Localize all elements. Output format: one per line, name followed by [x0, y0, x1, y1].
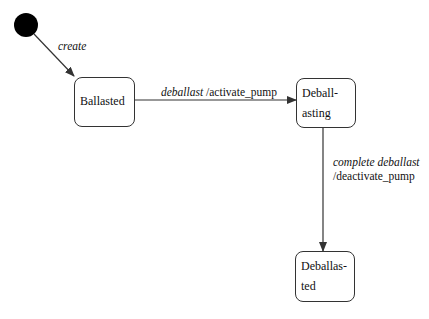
transition-deballast-label: deballast /activate_pump: [161, 85, 277, 99]
initial-state-dot: [14, 13, 38, 37]
state-deballasted-line1: Deballas-: [301, 256, 354, 276]
transition-deballast-event: deballast: [161, 86, 203, 98]
state-deballasting-line2: asting: [302, 103, 355, 123]
transition-complete-event: complete deballast: [333, 155, 420, 169]
state-deballasted[interactable]: Deballas- ted: [295, 251, 355, 302]
state-deballasting[interactable]: Deball- asting: [296, 78, 356, 128]
state-deballasting-line1: Deball-: [302, 83, 355, 103]
state-ballasted[interactable]: Ballasted: [74, 77, 135, 127]
state-deballasted-line2: ted: [301, 276, 354, 296]
transition-complete-action: /deactivate_pump: [333, 169, 420, 183]
state-ballasted-label: Ballasted: [80, 91, 134, 111]
transition-deballast-action: /activate_pump: [206, 86, 277, 98]
transition-create-label: create: [58, 39, 86, 53]
transition-complete-label: complete deballast /deactivate_pump: [333, 155, 420, 183]
